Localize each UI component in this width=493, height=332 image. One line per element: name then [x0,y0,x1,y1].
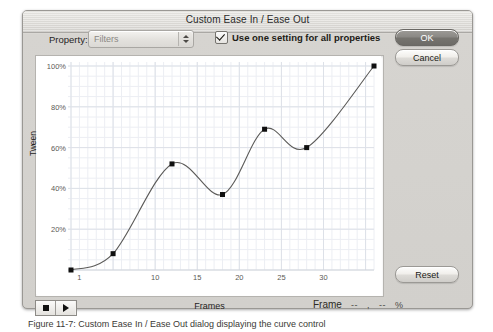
curve-control-point[interactable] [262,127,267,132]
ease-curve-plot[interactable]: 20%40%60%80%100% 11015202530 [36,56,381,294]
frame-readout-label: Frame [313,299,342,310]
frame-readout-percent-value: -- [379,300,386,310]
use-one-setting-checkbox[interactable] [215,31,228,44]
play-triangle-icon [63,304,69,312]
frame-readout-comma: , [367,300,370,310]
property-label: Property: [49,34,88,45]
reset-button[interactable]: Reset [395,266,459,283]
chevron-up-icon [183,35,189,38]
chevron-down-icon [183,40,189,43]
curve-control-point[interactable] [111,251,116,256]
svg-text:40%: 40% [51,184,66,193]
svg-text:15: 15 [193,273,201,282]
play-button[interactable] [55,301,75,315]
svg-text:20%: 20% [51,225,66,234]
curve-control-point[interactable] [69,268,74,273]
chevron-updown-icon [178,32,192,46]
ok-button[interactable]: OK [395,29,459,46]
use-one-setting-checkbox-row[interactable]: Use one setting for all properties [215,31,380,44]
frame-readout: Frame -- , -- % [313,299,403,310]
dialog-title: Custom Ease In / Ease Out [23,14,472,25]
use-one-setting-label: Use one setting for all properties [232,32,380,43]
frame-readout-percent-sign: % [395,300,404,310]
svg-text:30: 30 [319,273,327,282]
ease-curve-editor[interactable]: 20%40%60%80%100% 11015202530 Tween Frame… [35,55,384,297]
y-axis-title: Tween [28,131,38,156]
property-dropdown-value: Filters [94,34,119,44]
curve-control-point[interactable] [220,192,225,197]
svg-text:10: 10 [151,273,159,282]
stop-button[interactable] [36,301,55,315]
curve-control-point[interactable] [372,64,377,69]
playback-controls[interactable] [35,300,77,316]
curve-control-point[interactable] [170,161,175,166]
svg-text:100%: 100% [47,62,67,71]
curve-control-point[interactable] [304,145,309,150]
cancel-button[interactable]: Cancel [395,49,459,66]
svg-text:20: 20 [235,273,243,282]
figure-caption: Figure 11-7: Custom Ease In / Ease Out d… [28,318,468,330]
property-dropdown[interactable]: Filters [88,30,194,48]
svg-text:80%: 80% [51,103,66,112]
svg-text:1: 1 [77,273,81,282]
custom-ease-dialog: Custom Ease In / Ease Out Property: Filt… [22,10,473,309]
frame-readout-value: -- [351,300,358,310]
svg-text:60%: 60% [51,144,66,153]
stop-square-icon [43,305,49,311]
svg-text:25: 25 [277,273,285,282]
